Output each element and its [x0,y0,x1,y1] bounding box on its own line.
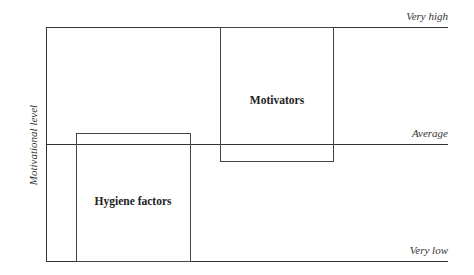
hygiene-factors-label: Hygiene factors [95,195,172,207]
average-label: Average [412,127,448,139]
very-high-label: Very high [406,10,448,22]
motivators-label: Motivators [250,94,304,106]
very-low-label: Very low [410,244,448,256]
motivation-hygiene-diagram: Very high Average Very low Motivators Hy… [0,0,474,275]
y-axis-label: Motivational level [27,105,39,185]
